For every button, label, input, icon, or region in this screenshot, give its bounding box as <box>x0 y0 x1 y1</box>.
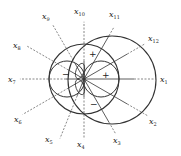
axis-label-x8: x8 <box>13 41 21 51</box>
axis-label-x7: x7 <box>8 75 16 85</box>
minus-sign-2: − <box>62 69 70 79</box>
axis-label-x1: x1 <box>160 75 168 85</box>
axis-label-x10: x10 <box>74 7 85 17</box>
axis-label-x2: x2 <box>149 117 157 127</box>
plus-sign-1: + <box>102 70 110 80</box>
minus-sign-3: − <box>90 99 98 109</box>
axis-label-x12: x12 <box>148 34 159 44</box>
axis-label-x5: x5 <box>45 135 53 145</box>
axis-x11-dashed <box>109 27 114 36</box>
axis-label-x9: x9 <box>42 12 50 22</box>
axis-x8-dashed <box>27 46 68 70</box>
axis-x12-dashed <box>127 44 144 54</box>
axis-label-x6: x6 <box>14 115 22 125</box>
axis-label-x4: x4 <box>77 140 85 150</box>
polar-diagram: x1x2x3x4x5x6x7x8x9x10x11x12 ++−− <box>0 0 181 156</box>
axis-x6-dashed <box>23 88 69 114</box>
axes-group <box>20 22 156 139</box>
axis-x2-dashed <box>127 104 148 116</box>
axis-x5-dashed <box>60 96 77 139</box>
axis-label-x3: x3 <box>113 136 121 146</box>
plus-sign-0: + <box>89 49 97 59</box>
labels-group: x1x2x3x4x5x6x7x8x9x10x11x12 <box>8 7 168 150</box>
large-circle <box>68 36 156 124</box>
axis-label-x11: x11 <box>109 10 120 20</box>
